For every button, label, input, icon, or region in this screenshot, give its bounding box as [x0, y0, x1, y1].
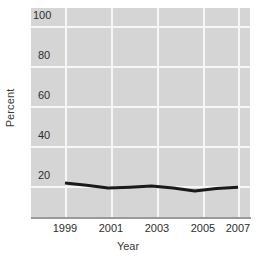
- data-series-layer: [31, 8, 250, 218]
- plot-area: [31, 8, 250, 218]
- x-tick-label-2003: 2003: [137, 222, 177, 234]
- y-axis-label-container: Percent: [2, 78, 16, 148]
- x-tick-label-2007: 2007: [218, 222, 256, 234]
- x-axis-label: Year: [0, 240, 256, 252]
- y-tick-label-100: 100: [33, 10, 51, 21]
- x-axis-baseline: [31, 217, 251, 219]
- y-tick-label-20: 20: [38, 170, 50, 181]
- y-tick-label-60: 60: [38, 90, 50, 101]
- y-axis-label: Percent: [4, 78, 16, 138]
- x-tick-label-1999: 1999: [45, 222, 85, 234]
- line-chart: Percent 100 80 60 40 20 1999 2001 2003 2…: [0, 0, 256, 258]
- x-tick-label-2001: 2001: [91, 222, 131, 234]
- x-tick-label-2005: 2005: [183, 222, 223, 234]
- data-line-percent: [65, 183, 238, 191]
- y-tick-label-40: 40: [38, 130, 50, 141]
- y-tick-label-80: 80: [38, 50, 50, 61]
